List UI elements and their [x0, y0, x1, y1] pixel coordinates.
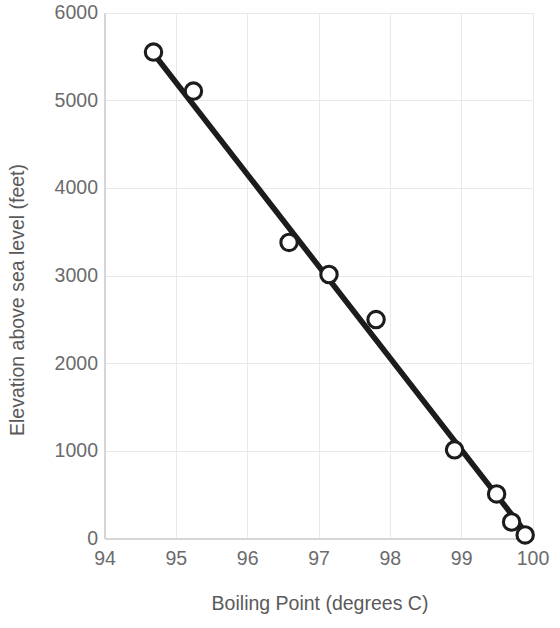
y-axis-tick-label: 0 [34, 529, 98, 549]
data-point-marker [185, 83, 201, 99]
y-axis-tick-label: 2000 [34, 354, 98, 374]
data-point-marker [446, 442, 462, 458]
x-axis-tick-label: 97 [284, 549, 354, 569]
data-point-marker [503, 514, 519, 530]
y-axis-title: Elevation above sea level (feet) [0, 0, 34, 628]
x-axis-tick-label: 95 [141, 549, 211, 569]
trend-line [149, 48, 528, 535]
scatter-chart-figure: Elevation above sea level (feet) 0100020… [0, 0, 560, 628]
x-axis-tick-label: 100 [498, 549, 560, 569]
plot-svg [105, 13, 533, 539]
plot-area [105, 13, 533, 539]
data-point-marker [321, 266, 337, 282]
x-axis-tick-label: 96 [213, 549, 283, 569]
data-point-marker [517, 527, 533, 543]
data-point-marker [145, 44, 161, 60]
data-point-marker [488, 486, 504, 502]
x-axis-title: Boiling Point (degrees C) [105, 592, 535, 615]
data-point-marker [368, 311, 384, 327]
y-axis-tick-label: 5000 [34, 91, 98, 111]
y-axis-tick-label: 3000 [34, 266, 98, 286]
y-axis-tick-labels: 0100020003000400050006000 [32, 0, 98, 628]
trend-line-segment [149, 48, 528, 535]
y-axis-tick-label: 6000 [34, 3, 98, 23]
data-point-marker [281, 234, 297, 250]
y-axis-tick-label: 1000 [34, 442, 98, 462]
y-axis-title-text: Elevation above sea level (feet) [6, 164, 29, 436]
x-axis-tick-label: 98 [355, 549, 425, 569]
x-axis-tick-label: 94 [70, 549, 140, 569]
x-axis-tick-label: 99 [427, 549, 497, 569]
y-axis-tick-label: 4000 [34, 179, 98, 199]
